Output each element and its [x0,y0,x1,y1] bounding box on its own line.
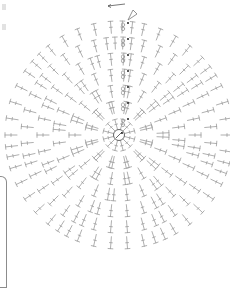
dc-stitch-icon [113,119,118,129]
dc-stitch-icon [216,99,228,105]
dc-stitch-icon [157,194,165,205]
side-panel-border [0,176,7,288]
dc-stitch-icon [23,69,34,78]
dc-stitch-icon [168,205,177,216]
dc-stitch-icon [108,172,113,184]
dc-stitch-icon [75,45,82,57]
dc-stitch-icon [176,176,187,185]
dc-stitch-icon [177,88,188,97]
dc-stitch-icon [37,133,49,138]
dc-stitch-icon [215,169,227,175]
dc-stitch-icon [180,196,190,206]
dc-stitch-icon [159,211,167,223]
dc-stitch-icon [123,173,128,185]
dc-stitch-icon [106,156,112,168]
dc-stitch-icon [76,196,84,208]
chain-icon [121,87,124,91]
dc-stitch-icon [197,171,209,178]
dc-stitch-icon [138,168,146,180]
dc-stitch-icon [42,161,54,168]
dc-stitch-icon [155,45,162,57]
dc-stitch-icon [48,196,58,206]
dc-stitch-icon [5,145,17,150]
dc-stitch-icon [125,189,130,201]
dc-stitch-icon [156,28,163,40]
slip-stitch-icon [127,22,129,24]
dc-stitch-icon [220,150,230,155]
dc-stitch-icon [6,116,18,121]
dc-stitch-icon [88,201,94,213]
dc-stitch-icon [140,185,147,197]
dc-stitch-icon [29,91,41,98]
dc-stitch-icon [154,63,162,75]
dc-stitch-icon [147,99,157,109]
dc-stitch-icon [169,108,181,115]
dc-stitch-icon [141,218,146,230]
dc-stitch-icon [72,211,80,223]
dc-stitch-icon [160,228,167,240]
dc-stitch-icon [21,124,33,129]
dc-stitch-icon [79,214,86,226]
dc-stitch-icon [108,205,113,217]
dc-stitch-icon [125,136,135,141]
dc-stitch-icon [95,202,101,214]
dc-stitch-icon [9,99,21,105]
dc-stitch-icon [57,108,69,115]
dc-stitch-icon [125,205,130,217]
dc-stitch-icon [7,155,19,160]
dc-stitch-icon [15,83,27,90]
dc-stitch-icon [91,218,96,230]
dc-stitch-icon [24,107,36,112]
dc-stitch-icon [71,118,83,124]
dc-stitch-icon [211,179,223,186]
dc-stitch-icon [86,122,98,128]
dc-stitch-icon [170,35,178,47]
dc-stitch-icon [189,133,201,138]
dc-stitch-icon [108,85,113,97]
slip-stitch-icon [127,70,129,72]
dc-stitch-icon [92,185,99,197]
dc-stitch-icon [157,135,169,140]
dc-stitch-icon [103,136,113,141]
dc-stitch-icon [30,59,41,69]
dc-stitch-icon [94,169,102,181]
dc-stitch-icon [61,53,70,64]
dc-stitch-icon [154,176,164,187]
chain-icon [121,23,124,27]
dc-stitch-icon [95,55,101,67]
dc-stitch-icon [72,150,84,157]
dc-stitch-icon [152,214,159,226]
dc-stitch-icon [15,179,27,186]
slip-stitch-icon [127,118,129,120]
dc-stitch-icon [187,73,198,82]
chain-icon [121,55,124,59]
dc-stitch-icon [38,116,50,121]
faint-mark [2,4,6,10]
dc-stitch-icon [205,141,217,146]
dc-stitch-icon [169,156,181,163]
dc-stitch-icon [91,40,96,52]
dc-stitch-icon [220,116,230,121]
dc-stitch-icon [92,73,99,85]
dc-stitch-icon [105,188,110,200]
dc-stitch-icon [113,141,118,151]
dc-stitch-icon [183,215,192,226]
dc-stitch-icon [140,73,147,85]
dc-stitch-icon [166,187,176,198]
dc-stitch-icon [108,69,113,81]
dc-stitch-icon [174,82,185,91]
dc-stitch-icon [152,232,158,244]
slip-stitch-icon [121,132,123,134]
dc-stitch-icon [37,184,48,193]
dc-stitch-icon [104,38,109,50]
dc-stitch-icon [23,153,35,158]
dc-stitch-icon [125,221,130,233]
dc-stitch-icon [203,192,214,201]
dc-stitch-icon [34,204,44,214]
dc-stitch-icon [69,133,81,138]
dc-stitch-icon [91,234,96,246]
dc-stitch-icon [46,44,55,55]
dc-stitch-icon [160,91,171,101]
dc-stitch-icon [125,237,130,249]
